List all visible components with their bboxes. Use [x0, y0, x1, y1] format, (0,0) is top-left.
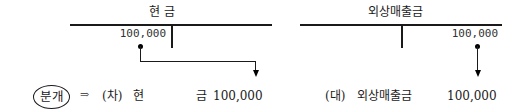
debit-account-name-part1: 현 [133, 89, 144, 103]
debit-connector-horizontal [140, 61, 256, 62]
credit-account-name: 외상매출금 [357, 89, 412, 103]
journal-entry-label-circled: 분개 [33, 85, 70, 109]
debit-entry-amount: 100,000 [213, 89, 263, 103]
cash-account-title: 현 금 [149, 5, 175, 19]
credit-entry-amount: 100,000 [447, 89, 497, 103]
cash-debit-amount: 100,000 [120, 27, 166, 40]
implies-arrow-icon: ⇒ [80, 88, 89, 102]
receivable-account-title: 외상매출금 [368, 5, 423, 19]
debit-connector-drop [140, 46, 141, 62]
credit-side-label: (대) [325, 89, 345, 103]
arrow-down-icon [475, 70, 481, 77]
debit-account-name-part2: 금 [196, 89, 207, 103]
receivable-account-divider [401, 24, 403, 48]
arrow-down-icon [253, 70, 259, 77]
receivable-credit-amount: 100,000 [452, 27, 498, 40]
credit-connector-drop [477, 46, 478, 71]
debit-side-label: (차) [102, 89, 122, 103]
cash-account-divider [171, 24, 173, 48]
